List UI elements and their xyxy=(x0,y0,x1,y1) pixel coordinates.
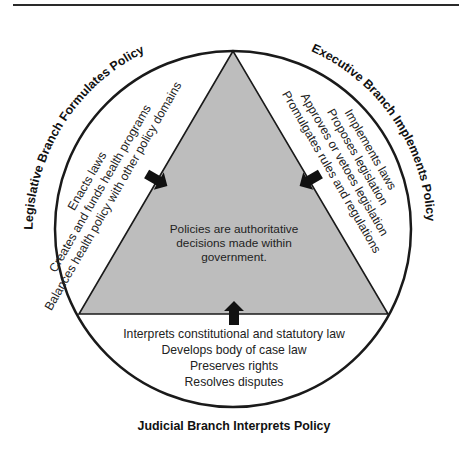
svg-text:decisions made within: decisions made within xyxy=(176,236,291,250)
judicial-item: Preserves rights xyxy=(190,359,278,373)
svg-text:Policies are authoritative: Policies are authoritative xyxy=(170,222,299,236)
judicial-item: Develops body of case law xyxy=(162,343,307,357)
judicial-title: Judicial Branch Interprets Policy xyxy=(138,419,331,433)
branches-of-government-diagram: Policies are authoritative decisions mad… xyxy=(0,0,469,449)
svg-text:government.: government. xyxy=(201,250,267,264)
judicial-item: Resolves disputes xyxy=(185,375,284,389)
judicial-item: Interprets constitutional and statutory … xyxy=(123,327,345,341)
